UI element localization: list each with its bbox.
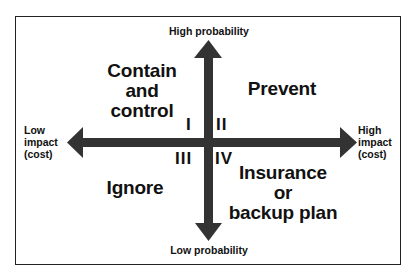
axis-label-low-impact-line: Low	[24, 124, 58, 136]
vertical-axis-shaft	[204, 56, 213, 226]
axis-label-high-probability: High probability	[158, 25, 260, 37]
strategy-line: Contain	[92, 61, 192, 81]
axis-label-high-impact-line: impact	[358, 136, 392, 148]
axis-label-low-impact: Low impact (cost)	[24, 124, 58, 160]
quadrant-4-numeral: IV	[215, 150, 233, 168]
up-arrowhead-icon	[194, 40, 222, 58]
axis-arrows	[0, 0, 415, 278]
axis-label-low-impact-line: (cost)	[24, 148, 58, 160]
strategy-line: Insurance	[223, 163, 343, 183]
quadrant-3-numeral: III	[175, 150, 192, 168]
strategy-line: control	[92, 101, 192, 121]
strategy-line: Prevent	[232, 79, 332, 99]
axis-label-high-impact-line: (cost)	[358, 148, 392, 160]
quadrant-3-strategy: Ignore	[85, 178, 185, 198]
axis-label-high-impact-line: High	[358, 124, 392, 136]
axis-label-low-probability: Low probability	[158, 244, 260, 256]
strategy-line: or	[223, 183, 343, 203]
strategy-line: backup plan	[223, 203, 343, 223]
axis-label-high-impact: High impact (cost)	[358, 124, 392, 160]
quadrant-1-numeral: I	[186, 116, 192, 134]
left-arrowhead-icon	[67, 127, 83, 158]
quadrant-2-strategy: Prevent	[232, 79, 332, 99]
down-arrowhead-icon	[195, 223, 222, 241]
right-arrowhead-icon	[340, 127, 357, 158]
quadrant-2-numeral: II	[216, 116, 227, 134]
axis-label-low-impact-line: impact	[24, 136, 58, 148]
strategy-line: and	[92, 81, 192, 101]
quadrant-1-strategy: Contain and control	[92, 61, 192, 121]
quadrant-4-strategy: Insurance or backup plan	[223, 163, 343, 223]
strategy-line: Ignore	[85, 178, 185, 198]
